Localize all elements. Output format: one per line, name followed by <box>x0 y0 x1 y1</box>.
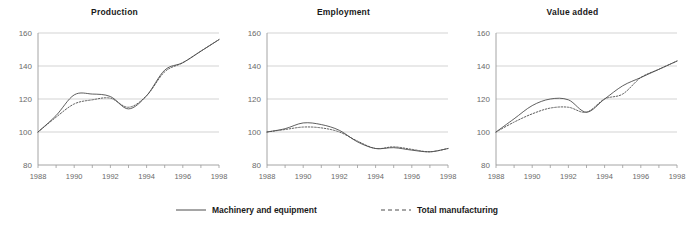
legend-entry-machinery-and-equipment: Machinery and equipment <box>176 202 317 218</box>
svg-text:160: 160 <box>248 29 262 38</box>
svg-text:1994: 1994 <box>367 172 384 181</box>
series-line-solid <box>38 40 219 132</box>
legend-label-machinery-and-equipment: Machinery and equipment <box>212 205 317 215</box>
svg-text:1992: 1992 <box>102 172 119 181</box>
chart-legend: Machinery and equipment Total manufactur… <box>0 196 687 229</box>
plot-employment: 80100120140160198819901992199419961998 <box>229 0 458 196</box>
svg-text:100: 100 <box>248 128 262 137</box>
svg-text:1990: 1990 <box>295 172 312 181</box>
svg-text:80: 80 <box>481 161 490 170</box>
svg-text:1998: 1998 <box>211 172 228 181</box>
svg-text:140: 140 <box>19 62 33 71</box>
svg-text:1996: 1996 <box>174 172 191 181</box>
chart-panel-production: Production 80100120140160198819901992199… <box>0 0 229 196</box>
svg-text:1992: 1992 <box>560 172 577 181</box>
legend-dashed-line-icon <box>381 206 411 214</box>
plot-production: 80100120140160198819901992199419961998 <box>0 0 229 196</box>
svg-text:140: 140 <box>248 62 262 71</box>
svg-text:1990: 1990 <box>524 172 541 181</box>
svg-text:1992: 1992 <box>331 172 348 181</box>
svg-text:1998: 1998 <box>669 172 686 181</box>
svg-text:1988: 1988 <box>30 172 47 181</box>
svg-text:100: 100 <box>19 128 33 137</box>
plot-value-added: 80100120140160198819901992199419961998 <box>458 0 687 196</box>
svg-text:120: 120 <box>477 95 491 104</box>
svg-text:1996: 1996 <box>632 172 649 181</box>
svg-text:160: 160 <box>477 29 491 38</box>
svg-text:1996: 1996 <box>403 172 420 181</box>
legend-solid-line-icon <box>176 206 206 214</box>
legend-label-total-manufacturing: Total manufacturing <box>417 205 498 215</box>
svg-text:1994: 1994 <box>596 172 613 181</box>
chart-panel-employment: Employment 80100120140160198819901992199… <box>229 0 458 196</box>
svg-text:120: 120 <box>19 95 33 104</box>
chart-panel-value-added: Value added 8010012014016019881990199219… <box>458 0 687 196</box>
svg-text:160: 160 <box>19 29 33 38</box>
svg-text:1994: 1994 <box>138 172 155 181</box>
svg-text:100: 100 <box>477 128 491 137</box>
series-line-dashed <box>38 40 219 132</box>
svg-text:1988: 1988 <box>259 172 276 181</box>
series-line-solid <box>496 61 677 132</box>
legend-entry-total-manufacturing: Total manufacturing <box>381 202 498 218</box>
svg-text:80: 80 <box>252 161 261 170</box>
svg-text:1990: 1990 <box>66 172 83 181</box>
svg-text:1998: 1998 <box>440 172 457 181</box>
svg-text:120: 120 <box>248 95 262 104</box>
svg-text:80: 80 <box>23 161 32 170</box>
svg-text:140: 140 <box>477 62 491 71</box>
series-line-dashed <box>496 61 677 132</box>
series-line-solid <box>267 123 448 152</box>
svg-text:1988: 1988 <box>488 172 505 181</box>
chart-panels-row: Production 80100120140160198819901992199… <box>0 0 687 196</box>
series-line-dashed <box>267 127 448 152</box>
